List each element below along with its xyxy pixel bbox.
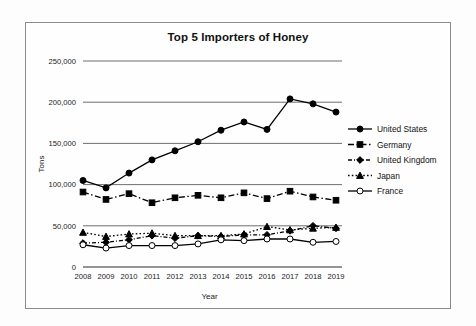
data-point-marker <box>80 242 86 248</box>
data-point-marker <box>287 236 293 242</box>
y-tick-label: 0 <box>72 263 76 272</box>
data-point-marker <box>264 196 270 202</box>
data-point-marker <box>149 200 155 206</box>
y-axis-label: Tons <box>37 156 46 173</box>
data-point-marker <box>241 190 247 196</box>
data-point-marker <box>126 170 132 176</box>
data-point-marker <box>357 157 364 164</box>
data-point-marker <box>126 191 132 197</box>
legend-item-germany[interactable]: Germany <box>348 140 412 150</box>
data-point-marker <box>357 126 363 132</box>
legend-label: France <box>377 186 403 196</box>
x-tick-label: 2010 <box>121 272 138 281</box>
data-point-marker <box>264 126 270 132</box>
data-point-marker <box>357 188 363 194</box>
data-point-marker <box>126 243 132 249</box>
x-tick-label: 2016 <box>259 272 276 281</box>
x-tick-label: 2011 <box>144 272 160 281</box>
data-point-marker <box>357 142 363 148</box>
legend-label: United Kingdom <box>377 155 437 165</box>
data-point-marker <box>218 195 224 201</box>
x-tick-label: 2012 <box>167 272 184 281</box>
data-point-marker <box>333 197 339 203</box>
chart-container: Top 5 Importers of Honey 250,000200,0001… <box>25 22 451 309</box>
legend-label: Germany <box>377 140 412 150</box>
data-point-marker <box>172 195 178 201</box>
y-tick-label: 200,000 <box>49 98 76 107</box>
x-tick-label: 2019 <box>328 272 345 281</box>
x-axis-label: Year <box>201 292 218 301</box>
data-point-marker <box>310 194 316 200</box>
x-tick-label: 2013 <box>190 272 207 281</box>
x-tick-label: 2009 <box>98 272 115 281</box>
chart-legend: United StatesGermanyUnited KingdomJapanF… <box>348 124 437 196</box>
y-tick-label: 150,000 <box>49 139 76 148</box>
data-point-marker <box>172 148 178 154</box>
data-point-marker <box>310 239 316 245</box>
data-point-marker <box>357 172 364 178</box>
x-tick-label: 2017 <box>282 272 299 281</box>
x-tick-label: 2015 <box>236 272 253 281</box>
legend-label: Japan <box>377 171 400 181</box>
x-axis-tick-labels: 2008200920102011201220132014201520162017… <box>75 272 345 281</box>
series-line <box>83 191 336 203</box>
data-point-marker <box>103 245 109 251</box>
data-point-marker <box>149 157 155 163</box>
series-germany <box>80 188 339 205</box>
data-point-marker <box>287 96 293 102</box>
legend-label: United States <box>377 124 427 134</box>
x-tick-label: 2018 <box>305 272 322 281</box>
legend-item-united-kingdom[interactable]: United Kingdom <box>348 155 437 165</box>
legend-item-united-states[interactable]: United States <box>348 124 427 134</box>
data-point-marker <box>149 243 155 249</box>
data-point-marker <box>149 230 156 236</box>
y-tick-label: 50,000 <box>53 222 76 231</box>
data-point-marker <box>333 238 339 244</box>
data-point-marker <box>126 231 133 237</box>
data-point-marker <box>287 188 293 194</box>
data-point-marker <box>241 238 247 244</box>
legend-item-japan[interactable]: Japan <box>348 171 400 181</box>
data-point-marker <box>195 193 201 199</box>
data-point-marker <box>218 127 224 133</box>
data-point-marker <box>195 241 201 247</box>
series-france <box>80 236 339 251</box>
series-line <box>83 227 336 237</box>
data-point-marker <box>172 243 178 249</box>
legend-item-france[interactable]: France <box>348 186 403 196</box>
line-chart-plot: 250,000200,000150,000100,00050,0000 2008… <box>26 23 450 308</box>
data-point-marker <box>264 223 271 229</box>
data-point-marker <box>80 189 86 195</box>
data-point-marker <box>310 101 316 107</box>
data-point-marker <box>103 197 109 203</box>
data-point-marker <box>103 233 110 239</box>
x-tick-label: 2008 <box>75 272 92 281</box>
data-point-marker <box>241 119 247 125</box>
y-axis-tick-labels: 250,000200,000150,000100,00050,0000 <box>49 57 76 272</box>
y-tick-label: 250,000 <box>49 57 76 66</box>
data-point-marker <box>80 177 86 183</box>
data-series-group <box>80 96 340 251</box>
y-tick-label: 100,000 <box>49 180 76 189</box>
data-point-marker <box>103 185 109 191</box>
data-point-marker <box>264 236 270 242</box>
data-point-marker <box>333 109 339 115</box>
x-tick-label: 2014 <box>213 272 230 281</box>
data-point-marker <box>195 139 201 145</box>
data-point-marker <box>80 229 87 235</box>
data-point-marker <box>218 237 224 243</box>
